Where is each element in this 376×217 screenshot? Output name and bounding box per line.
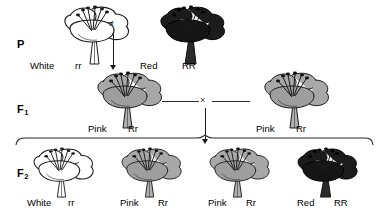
f1-cross-line-left	[162, 101, 199, 102]
label-f2-red-genotype: RR	[334, 198, 348, 208]
label-f1-pink-left-genotype: Rr	[128, 124, 138, 134]
flower-p-red	[148, 4, 234, 66]
cross-symbol-p: ×	[109, 20, 114, 29]
label-f1-pink-right-phenotype: Pink	[256, 124, 274, 134]
generation-label-p: P	[17, 39, 25, 50]
arrow-shaft-p-to-f1	[113, 32, 114, 66]
label-f1-pink-right-genotype: Rr	[296, 124, 306, 134]
flower-f2-white	[22, 146, 102, 198]
flower-f2-pink-2	[198, 146, 278, 198]
label-f1-pink-left-phenotype: Pink	[88, 124, 106, 134]
flower-f2-pink-1	[110, 146, 190, 198]
label-f2-white-phenotype: White	[27, 198, 51, 208]
label-f2-red-phenotype: Red	[297, 198, 314, 208]
flower-f2-red	[286, 146, 366, 198]
label-f2-pink-1-genotype: Rr	[158, 198, 168, 208]
flower-f1-pink-left	[85, 70, 171, 130]
cross-symbol-f1: ×	[200, 96, 205, 105]
label-p-white-phenotype: White	[30, 61, 54, 71]
f1-cross-line-right	[212, 101, 250, 102]
generation-label-f1: F1	[17, 104, 28, 115]
label-f2-pink-2-phenotype: Pink	[208, 198, 226, 208]
genetics-cross-diagram: P F1 F2	[0, 0, 376, 217]
label-p-white-genotype: rr	[75, 61, 81, 71]
flower-p-white	[52, 4, 138, 66]
label-f2-pink-1-phenotype: Pink	[120, 198, 138, 208]
f2-distribution-bracket	[14, 134, 374, 146]
label-p-red-genotype: RR	[182, 61, 196, 71]
label-f2-pink-2-genotype: Rr	[246, 198, 256, 208]
flower-f1-pink-right	[252, 70, 338, 130]
label-f2-white-genotype: rr	[68, 198, 74, 208]
